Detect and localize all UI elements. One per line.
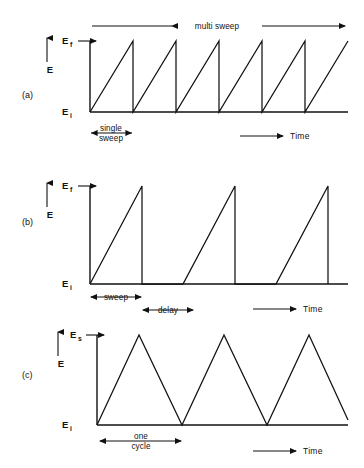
single-sweep-label-line1: single	[100, 124, 122, 133]
one-cycle-label-line1: one	[134, 432, 148, 441]
panel-b-Ef-subscript: f	[70, 186, 73, 193]
panel-b-Ei-label: E	[62, 278, 69, 289]
panel-b: E E f E i sweep delay Time (b)	[22, 180, 348, 315]
panel-a-waveform	[90, 41, 348, 112]
one-cycle-label-line2: cycle	[131, 442, 151, 451]
panel-c: E E s E i one cycle Time (c)	[22, 329, 348, 456]
panel-b-time-label: Time	[303, 304, 323, 314]
panel-c-E-label: E	[58, 358, 65, 369]
panel-b-Ei-subscript: i	[70, 284, 72, 291]
single-sweep-label-line2: sweep	[99, 134, 124, 143]
panel-a-Ei-subscript: i	[70, 112, 72, 119]
panel-a-E-label: E	[47, 64, 54, 75]
panel-b-waveform	[90, 186, 328, 284]
panel-c-Es-label: E	[70, 329, 77, 340]
delay-label: delay	[158, 306, 179, 315]
panel-b-E-label: E	[47, 209, 54, 220]
figure-canvas: multi sweep E E f E i single sweep Time	[0, 0, 364, 468]
panel-c-Ei-subscript: i	[70, 425, 72, 432]
panel-a-Ef-subscript: f	[70, 41, 73, 48]
panel-a: multi sweep E E f E i single sweep Time	[22, 22, 348, 143]
sweep-label: sweep	[104, 293, 129, 302]
waveform-figure: multi sweep E E f E i single sweep Time	[0, 0, 364, 468]
multi-sweep-label: multi sweep	[195, 22, 240, 31]
panel-b-Ef-label: E	[62, 180, 69, 191]
panel-c-Es-subscript: s	[78, 335, 82, 342]
panel-c-letter: (c)	[22, 370, 33, 380]
panel-c-Ei-label: E	[62, 419, 69, 430]
panel-a-Ei-label: E	[62, 106, 69, 117]
panel-c-time-label: Time	[303, 446, 323, 456]
panel-a-Ef-label: E	[62, 35, 69, 46]
panel-b-letter: (b)	[22, 217, 33, 227]
panel-c-waveform	[97, 335, 348, 425]
panel-a-time-label: Time	[290, 131, 310, 141]
panel-a-letter: (a)	[22, 90, 33, 100]
